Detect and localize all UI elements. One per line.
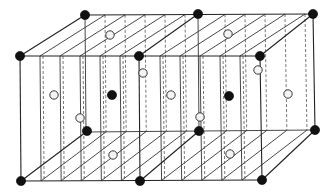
plane-back-edge (165, 15, 166, 132)
plane-top-edge (60, 15, 125, 56)
white-atom (196, 113, 204, 121)
back-vertical-edge (313, 14, 315, 130)
black-atom (107, 90, 116, 99)
plane-top-edge (160, 14, 225, 56)
plane-top-edge (240, 14, 305, 56)
black-atom (224, 91, 233, 100)
plane-top-edge (180, 14, 245, 56)
plane-front-edge (240, 56, 242, 180)
bottom-depth-edge (262, 130, 315, 180)
white-atom (284, 90, 292, 98)
plane-inner-dashed (63, 56, 64, 181)
crystal-lattice-diagram (0, 0, 332, 194)
plane-inner-dashed (123, 56, 124, 181)
plane-inner-dashed (183, 56, 185, 180)
plane-front-edge (160, 56, 162, 180)
black-atom (308, 9, 317, 18)
white-atom (50, 91, 58, 99)
black-atom (255, 51, 264, 60)
white-atom (226, 150, 234, 158)
black-atom (134, 51, 143, 60)
front-vertical-edge (260, 56, 262, 180)
plane-inner-dashed (243, 56, 245, 180)
lattice-svg (0, 0, 332, 194)
plane-front-edge (120, 56, 121, 181)
front-vertical-edge (20, 56, 21, 181)
plane-inner-dashed (223, 56, 225, 180)
black-atom (193, 9, 202, 18)
white-atom (106, 31, 114, 39)
white-atom (109, 151, 117, 159)
back-vertical-edge (85, 15, 86, 132)
plane-bottom-edge (121, 131, 186, 180)
plane-back-edge (245, 14, 247, 130)
black-atom (16, 176, 25, 185)
black-atom (257, 175, 266, 184)
plane-back-edge (305, 14, 307, 130)
plane-front-edge (40, 56, 41, 181)
plane-bottom-edge (41, 132, 106, 181)
black-atom (194, 126, 203, 135)
plane-front-edge (180, 56, 182, 180)
white-atom (167, 91, 175, 99)
plane-front-edge (100, 56, 101, 181)
black-atom (82, 126, 91, 135)
plane-bottom-edge (162, 131, 227, 181)
bottom-depth-edge (21, 132, 86, 181)
plane-back-edge (105, 15, 106, 132)
plane-back-edge (265, 14, 267, 130)
plane-front-edge (60, 56, 61, 181)
plane-inner-dashed (43, 56, 44, 181)
black-atom (310, 125, 319, 134)
white-atom (76, 114, 84, 122)
plane-front-edge (220, 56, 222, 180)
white-atom (139, 69, 147, 77)
plane-top-edge (40, 15, 105, 56)
plane-bottom-edge (242, 130, 307, 180)
black-atom (15, 51, 24, 60)
plane-back-edge (185, 15, 186, 132)
black-atom (80, 10, 89, 19)
top-depth-edge (20, 15, 85, 56)
black-atom (135, 176, 144, 185)
plane-top-edge (120, 15, 185, 56)
plane-back-edge (285, 14, 287, 130)
plane-back-edge (125, 15, 126, 132)
plane-inner-dashed (103, 56, 104, 181)
white-atom (254, 66, 262, 74)
white-atom (224, 30, 232, 38)
